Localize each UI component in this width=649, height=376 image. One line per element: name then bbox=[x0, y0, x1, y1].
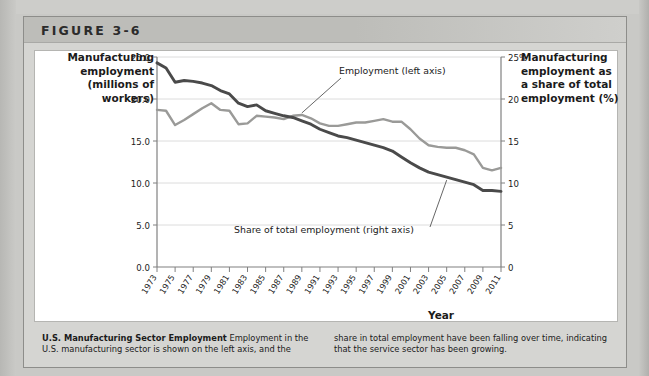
figure-panel: FIGURE 3-6 Manufacturingemployment(milli… bbox=[23, 16, 627, 368]
y-axis-left-title: Manufacturingemployment(millions ofworke… bbox=[42, 51, 154, 105]
figure-caption: U.S. Manufacturing Sector Employment Emp… bbox=[34, 333, 618, 369]
figure-page: FIGURE 3-6 Manufacturingemployment(milli… bbox=[0, 0, 649, 376]
page-right-edge bbox=[639, 0, 649, 376]
caption-title: U.S. Manufacturing Sector Employment bbox=[42, 333, 227, 343]
page-top-edge bbox=[0, 0, 649, 14]
y-axis-right-title: Manufacturingemployment asa share of tot… bbox=[521, 51, 631, 105]
figure-number-label: FIGURE 3-6 bbox=[41, 23, 142, 38]
page-left-edge bbox=[0, 0, 16, 376]
caption-column-left: U.S. Manufacturing Sector Employment Emp… bbox=[42, 333, 320, 356]
caption-column-right: share in total employment have been fall… bbox=[334, 333, 612, 356]
x-axis-title: Year bbox=[428, 309, 454, 321]
caption-body-right: share in total employment have been fall… bbox=[334, 333, 607, 354]
